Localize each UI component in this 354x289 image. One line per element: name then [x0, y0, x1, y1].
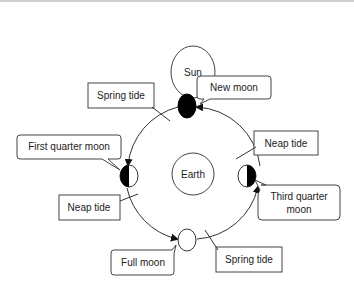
spring-tide-bottom-label: Spring tide	[205, 230, 282, 272]
third-quarter-moon-label-line1: Third quarter	[270, 191, 328, 202]
new-moon-label: New moon	[210, 82, 258, 93]
first-quarter-moon-label: First quarter moon	[28, 141, 110, 152]
earth-label: Earth	[181, 169, 205, 180]
third-quarter-moon-icon	[238, 165, 256, 187]
neap-tide-right-text: Neap tide	[265, 138, 308, 149]
neap-tide-left-label: Neap tide	[59, 194, 138, 220]
third-quarter-moon-label-line2: moon	[286, 204, 311, 215]
spring-tide-top-label: Spring tide	[88, 83, 170, 121]
full-moon-icon	[178, 229, 196, 251]
spring-tide-top-text: Spring tide	[97, 90, 145, 101]
full-moon-label: Full moon	[121, 257, 165, 268]
new-moon-icon	[178, 94, 196, 118]
third-quarter-moon-callout: Third quarter moon	[255, 180, 340, 220]
earth: Earth	[172, 153, 214, 195]
first-quarter-moon-icon	[120, 165, 138, 187]
orbit-arc-new-to-first	[128, 107, 178, 165]
first-quarter-moon-callout: First quarter moon	[17, 135, 121, 170]
neap-tide-left-text: Neap tide	[68, 202, 111, 213]
new-moon-callout: New moon	[197, 76, 271, 104]
moon-tide-diagram: Sun Earth Spring tide New moon	[0, 0, 354, 289]
full-moon-callout: Full moon	[111, 245, 176, 275]
orbit-arc-third-to-new	[197, 107, 260, 166]
spring-tide-bottom-text: Spring tide	[225, 254, 273, 265]
